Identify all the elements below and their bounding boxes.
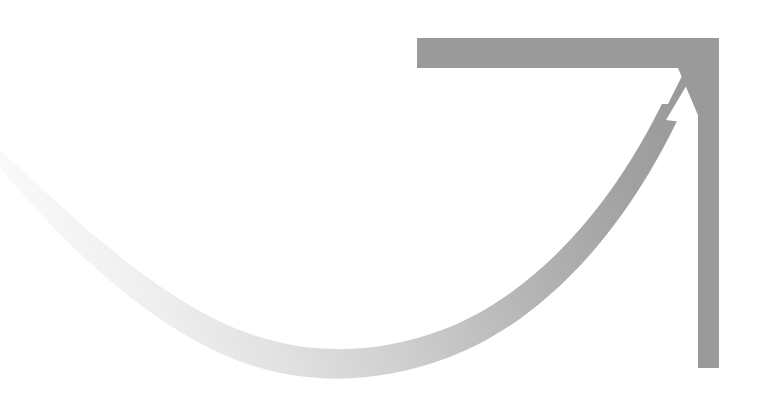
- growth-arrow-graphic: [0, 0, 780, 409]
- graphic-canvas: Upward growth arrow graphic: [0, 0, 780, 409]
- right-vertical-bar-overlay: [698, 38, 719, 368]
- top-horizontal-bar-overlay: [417, 38, 719, 68]
- corner-relief: [417, 68, 686, 104]
